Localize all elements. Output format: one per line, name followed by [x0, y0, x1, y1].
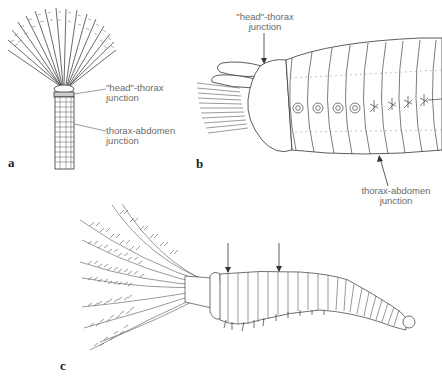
panel-label-b: b [196, 156, 203, 172]
annotation-line2: junction [106, 93, 163, 103]
panel-a-drawing [8, 8, 116, 169]
collar-ring-icon [54, 92, 74, 97]
panel-a-head-thorax-label: "head"-thorax junction [106, 83, 163, 103]
panel-c-drawing [80, 204, 415, 350]
pygidium-icon [403, 316, 415, 328]
panel-b-drawing [197, 33, 442, 186]
panel-label-c: c [60, 358, 66, 374]
panel-b-head-thorax-label: "head"-thorax junction [230, 12, 300, 32]
annotation-line2: junction [106, 136, 175, 146]
tentacle-crown-icon [8, 8, 116, 86]
panel-a-thorax-abdomen-label: thorax-abdomen junction [106, 126, 175, 146]
panel-label-a: a [8, 155, 15, 171]
panel-b-thorax-abdomen-label: thorax-abdomen junction [356, 186, 436, 206]
annotation-line2: junction [356, 196, 436, 206]
annotation-line2: junction [230, 22, 300, 32]
